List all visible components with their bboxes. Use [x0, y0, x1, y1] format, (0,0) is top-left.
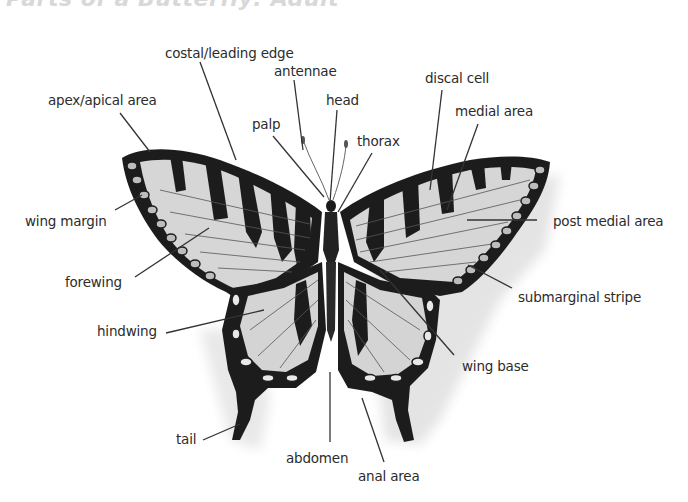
label-tail: tail [176, 431, 196, 447]
label-apex: apex/apical area [48, 92, 157, 108]
leader-line-medial [447, 124, 478, 210]
leader-line-palp [273, 136, 324, 197]
label-wing-base: wing base [462, 358, 529, 374]
label-medial: medial area [455, 103, 533, 119]
leader-line-discal [430, 90, 442, 190]
leader-line-wing-base [380, 270, 454, 355]
label-antennae: antennae [274, 63, 337, 79]
leader-line-antennae [294, 80, 303, 150]
label-costal: costal/leading edge [165, 45, 294, 61]
label-hindwing: hindwing [97, 323, 157, 339]
leader-line-apex [120, 113, 150, 152]
butterfly-diagram: Parts of a Butterfly: Adult [0, 0, 688, 502]
leader-line-thorax [338, 153, 372, 212]
label-forewing: forewing [65, 274, 122, 290]
leader-lines [0, 0, 688, 502]
leader-line-submarginal [468, 265, 512, 288]
label-post-medial: post medial area [553, 213, 663, 229]
label-discal: discal cell [425, 70, 489, 86]
label-anal-area: anal area [358, 468, 419, 484]
leader-line-tail [203, 424, 240, 440]
leader-line-anal-area [362, 398, 384, 462]
leader-line-hindwing [166, 310, 264, 333]
label-thorax: thorax [357, 133, 400, 149]
leader-line-costal [200, 62, 236, 160]
leader-line-forewing [135, 228, 209, 277]
label-submarginal: submarginal stripe [518, 289, 641, 305]
leader-line-wing-margin [115, 195, 142, 210]
label-head: head [326, 92, 359, 108]
label-palp: palp [252, 116, 280, 132]
label-abdomen: abdomen [286, 450, 348, 466]
label-wing-margin: wing margin [25, 213, 107, 229]
leader-line-head [330, 110, 337, 202]
